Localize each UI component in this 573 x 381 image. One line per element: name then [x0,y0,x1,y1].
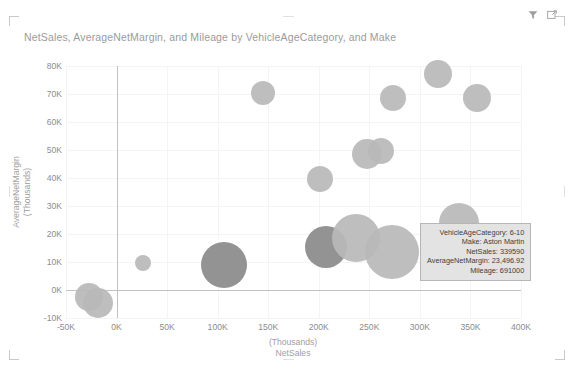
tooltip-row: AverageNetMargin: 23,496.92 [427,256,524,265]
y-axis-tick-label: 80K [47,61,62,71]
y-axis-tick-label: 10K [47,257,62,267]
x-axis-tick-label: 400K [511,322,531,332]
bubble-data-point[interactable] [368,138,394,164]
x-axis-tick-label: 0K [111,322,122,332]
x-axis-ticks: -50K0K50K100K150K200K250K300K350K400K [66,322,521,336]
x-axis-tick-label: 100K [208,322,228,332]
tooltip-row: Mileage: 691000 [427,266,524,275]
tooltip-row: NetSales: 339590 [427,247,524,256]
x-axis-label-unit: (Thousands) [269,337,317,347]
x-axis-tick-label: 50K [159,322,174,332]
plot-area-wrapper: -10K0K10K20K30K40K50K60K70K80K -50K0K50K… [0,0,573,381]
y-axis-tick-label: 0K [51,285,62,295]
bubble-data-point[interactable] [135,255,151,271]
y-axis-label-unit: (Thousands) [22,168,32,216]
gridline-vertical [66,66,67,318]
y-axis-tick-label: 30K [47,201,62,211]
bubble-data-point[interactable] [201,242,247,288]
y-axis-tick-label: 20K [47,229,62,239]
gridline-vertical [167,66,168,318]
gridline-horizontal [66,66,521,67]
gridline-horizontal [66,150,521,151]
bubble-data-point[interactable] [251,81,275,105]
y-axis-tick-label: 70K [47,89,62,99]
x-axis-tick-label: 350K [460,322,480,332]
y-axis-tick-label: 50K [47,145,62,155]
powerbi-scatter-visual: NetSales, AverageNetMargin, and Mileage … [0,0,573,381]
axis-line-x-zero [117,66,118,318]
gridline-horizontal [66,122,521,123]
y-axis-label-measure: AverageNetMargin [11,156,21,228]
bubble-data-point[interactable] [307,166,333,192]
x-axis-label-measure: NetSales [276,348,311,358]
bubble-data-point[interactable] [424,60,452,88]
x-axis-tick-label: 250K [359,322,379,332]
gridline-horizontal [66,94,521,95]
y-axis-tick-label: 60K [47,117,62,127]
data-point-tooltip: VehicleAgeCategory: 6-10Make: Aston Mart… [420,223,531,281]
tooltip-row: Make: Aston Martin [427,237,524,246]
x-axis-label: (Thousands) NetSales [269,337,317,359]
bubble-data-point[interactable] [83,288,113,318]
gridline-horizontal [66,318,521,319]
tooltip-row: VehicleAgeCategory: 6-10 [427,228,524,237]
gridline-vertical [268,66,269,318]
x-axis-tick-label: 200K [309,322,329,332]
x-axis-tick-label: 150K [258,322,278,332]
bubble-data-point[interactable] [365,225,419,279]
x-axis-tick-label: -50K [57,322,75,332]
y-axis-label: AverageNetMargin (Thousands) [11,156,33,228]
gridline-vertical [369,66,370,318]
gridline-horizontal [66,178,521,179]
x-axis-tick-label: 300K [410,322,430,332]
axis-line-y-zero [66,290,521,291]
y-axis-tick-label: 40K [47,173,62,183]
bubble-data-point[interactable] [380,85,406,111]
bubble-data-point[interactable] [463,84,491,112]
